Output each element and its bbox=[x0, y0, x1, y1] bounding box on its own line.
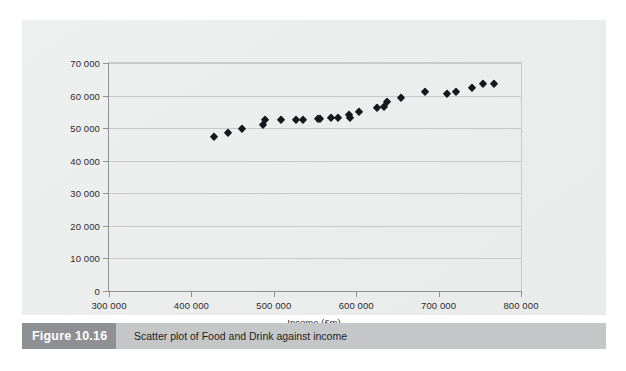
x-axis-tick bbox=[439, 291, 440, 297]
scatter-point bbox=[467, 84, 476, 93]
scatter-point bbox=[334, 114, 343, 123]
scatter-point bbox=[237, 125, 246, 134]
x-axis-tick-label: 400 000 bbox=[174, 300, 209, 311]
y-axis-tick-label: 50 000 bbox=[70, 123, 100, 134]
x-axis-tick-label: 300 000 bbox=[91, 300, 126, 311]
y-axis-tick-label: 60 000 bbox=[70, 90, 100, 101]
y-axis-tick-label: 30 000 bbox=[70, 188, 100, 199]
y-axis-tick-label: 10 000 bbox=[70, 253, 100, 264]
x-axis-tick bbox=[274, 291, 275, 297]
figure-panel: 010 00020 00030 00040 00050 00060 00070 … bbox=[22, 20, 606, 315]
x-axis-tick-label: 700 000 bbox=[421, 300, 456, 311]
y-axis-title: Food and Drink (£m) bbox=[52, 0, 66, 62]
x-axis-tick bbox=[356, 291, 357, 297]
scatter-point bbox=[479, 80, 488, 89]
scatter-point bbox=[224, 129, 233, 138]
scatter-point bbox=[299, 115, 308, 124]
figure-number-badge: Figure 10.16 bbox=[22, 323, 116, 349]
x-axis-tick bbox=[109, 291, 110, 297]
figure-caption-text: Scatter plot of Food and Drink against i… bbox=[116, 323, 606, 349]
x-axis-tick bbox=[521, 291, 522, 297]
figure-caption-strip: Figure 10.16 Scatter plot of Food and Dr… bbox=[22, 323, 606, 349]
y-axis-tick-label: 40 000 bbox=[70, 155, 100, 166]
scatter-point bbox=[420, 87, 429, 96]
scatter-point bbox=[451, 87, 460, 96]
figure-screenshot: 010 00020 00030 00040 00050 00060 00070 … bbox=[0, 0, 626, 371]
scatter-point-layer bbox=[109, 63, 521, 291]
scatter-point bbox=[442, 89, 451, 98]
y-axis-tick-label: 20 000 bbox=[70, 220, 100, 231]
x-axis-tick-label: 500 000 bbox=[256, 300, 291, 311]
scatter-point bbox=[489, 79, 498, 88]
scatter-point bbox=[277, 115, 286, 124]
plot-area: 010 00020 00030 00040 00050 00060 00070 … bbox=[108, 62, 522, 292]
x-axis-tick-label: 800 000 bbox=[503, 300, 538, 311]
scatter-point bbox=[396, 94, 405, 103]
y-axis-tick-label: 70 000 bbox=[70, 58, 100, 69]
x-axis-tick-label: 600 000 bbox=[339, 300, 374, 311]
x-axis-tick bbox=[191, 291, 192, 297]
y-axis-tick-label: 0 bbox=[95, 286, 100, 297]
scatter-point bbox=[210, 132, 219, 141]
scatter-point bbox=[355, 108, 364, 117]
